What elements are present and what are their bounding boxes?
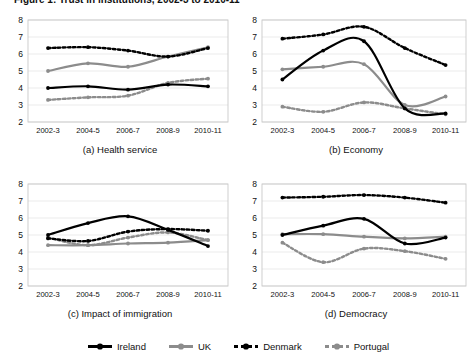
- series-marker-denmark: [281, 196, 285, 200]
- legend-item-portugal[interactable]: Portugal: [324, 341, 389, 352]
- series-marker-ireland: [206, 244, 210, 248]
- chart-svg-economy: 23456782002-32004-52006-72008-92010-11: [240, 14, 472, 142]
- legend-item-ireland[interactable]: Ireland: [87, 341, 146, 352]
- y-tick-label: 6: [252, 49, 257, 59]
- legend-item-denmark[interactable]: Denmark: [233, 341, 302, 352]
- series-marker-ireland: [166, 83, 170, 87]
- legend-swatch-portugal-icon: [324, 342, 350, 351]
- series-marker-ireland: [86, 84, 90, 88]
- series-marker-uk: [281, 67, 285, 71]
- series-line-uk: [282, 62, 445, 107]
- series-marker-ireland: [321, 224, 325, 228]
- y-tick-label: 6: [252, 213, 257, 223]
- y-tick-label: 8: [18, 15, 23, 25]
- x-tick-label: 2004-5: [76, 290, 100, 299]
- x-tick-label: 2002-3: [36, 290, 60, 299]
- y-tick-label: 5: [252, 66, 257, 76]
- legend-swatch-uk-icon: [168, 342, 194, 351]
- figure-title: Figure 1: Trust in institutions, 2002-3 …: [14, 0, 314, 6]
- x-tick-label: 2006-7: [352, 290, 376, 299]
- y-tick-label: 8: [252, 179, 257, 189]
- series-marker-denmark: [403, 196, 407, 200]
- x-tick-label: 2002-3: [271, 290, 295, 299]
- chart-svg-impact-of-immigration: 23456782002-32004-52006-72008-92010-11: [6, 178, 234, 306]
- y-tick-label: 6: [18, 49, 23, 59]
- x-tick-label: 2010-11: [432, 126, 459, 135]
- figure-panel-grid: Figure 1: Trust in institutions, 2002-3 …: [0, 0, 476, 364]
- series-marker-denmark: [46, 46, 50, 50]
- series-marker-ireland: [362, 39, 366, 43]
- series-marker-portugal: [281, 241, 285, 245]
- y-tick-label: 4: [252, 83, 257, 93]
- chart-caption-health-service: (a) Health service: [6, 144, 234, 155]
- series-marker-ireland: [403, 107, 407, 111]
- chart-panel-health-service: 23456782002-32004-52006-72008-92010-11 (…: [6, 14, 234, 159]
- legend-label-ireland: Ireland: [117, 341, 146, 352]
- x-tick-label: 2008-9: [393, 290, 417, 299]
- x-tick-label: 2002-3: [271, 126, 295, 135]
- legend-swatch-ireland-icon: [87, 342, 113, 351]
- series-marker-denmark: [126, 230, 130, 234]
- series-marker-portugal: [86, 95, 90, 99]
- y-tick-label: 2: [252, 117, 257, 127]
- x-tick-label: 2004-5: [311, 126, 335, 135]
- series-marker-ireland: [46, 86, 50, 90]
- series-marker-ireland: [281, 233, 285, 237]
- series-marker-denmark: [86, 45, 90, 49]
- series-marker-portugal: [206, 238, 210, 242]
- y-tick-label: 4: [252, 247, 257, 257]
- series-marker-ireland: [281, 78, 285, 82]
- x-tick-label: 2004-5: [311, 290, 335, 299]
- series-marker-portugal: [281, 105, 285, 109]
- y-tick-label: 3: [18, 264, 23, 274]
- series-marker-uk: [362, 235, 366, 239]
- series-line-denmark: [282, 26, 445, 65]
- series-marker-portugal: [321, 260, 325, 264]
- y-tick-label: 4: [18, 247, 23, 257]
- y-tick-label: 2: [18, 281, 23, 291]
- legend-item-uk[interactable]: UK: [168, 341, 211, 352]
- x-tick-label: 2010-11: [194, 126, 221, 135]
- y-tick-label: 7: [252, 32, 257, 42]
- y-tick-label: 3: [18, 100, 23, 110]
- y-tick-label: 6: [18, 213, 23, 223]
- y-tick-label: 5: [18, 66, 23, 76]
- x-tick-label: 2008-9: [156, 290, 180, 299]
- series-marker-denmark: [126, 49, 130, 53]
- series-marker-denmark: [403, 46, 407, 50]
- series-marker-portugal: [206, 77, 210, 81]
- chart-panel-economy: 23456782002-32004-52006-72008-92010-11 (…: [240, 14, 472, 159]
- series-marker-portugal: [403, 249, 407, 253]
- series-marker-ireland: [126, 214, 130, 218]
- series-marker-uk: [362, 62, 366, 66]
- y-tick-label: 3: [252, 100, 257, 110]
- y-tick-label: 7: [252, 196, 257, 206]
- y-tick-label: 4: [18, 83, 23, 93]
- chart-svg-democracy: 23456782002-32004-52006-72008-92010-11: [240, 178, 472, 306]
- series-marker-portugal: [444, 257, 448, 261]
- series-marker-uk: [403, 237, 407, 241]
- series-marker-ireland: [444, 236, 448, 240]
- series-marker-uk: [321, 232, 325, 236]
- series-marker-ireland: [46, 233, 50, 237]
- chart-caption-democracy: (d) Democracy: [240, 308, 472, 319]
- series-marker-denmark: [46, 237, 50, 241]
- chart-svg-health-service: 23456782002-32004-52006-72008-92010-11: [6, 14, 234, 142]
- y-tick-label: 7: [18, 32, 23, 42]
- y-tick-label: 8: [18, 179, 23, 189]
- series-marker-uk: [444, 95, 448, 99]
- y-tick-label: 7: [18, 196, 23, 206]
- series-marker-denmark: [362, 193, 366, 197]
- series-marker-ireland: [362, 217, 366, 221]
- series-marker-denmark: [362, 25, 366, 29]
- series-marker-denmark: [206, 46, 210, 50]
- series-marker-uk: [126, 65, 130, 69]
- series-marker-denmark: [321, 195, 325, 199]
- series-line-portugal: [282, 243, 445, 263]
- series-marker-portugal: [126, 236, 130, 240]
- legend-swatch-denmark-icon: [233, 342, 259, 351]
- x-tick-label: 2002-3: [36, 126, 60, 135]
- x-tick-label: 2010-11: [194, 290, 221, 299]
- legend: Ireland UK Denmark Portugal: [0, 336, 476, 356]
- series-marker-uk: [126, 242, 130, 246]
